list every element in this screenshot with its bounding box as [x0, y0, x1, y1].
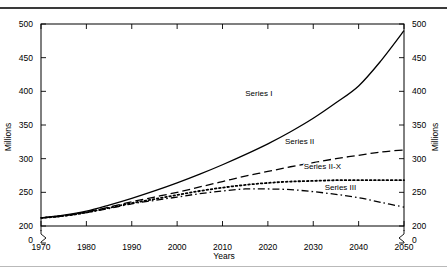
y-tick-label-left: 450: [19, 53, 33, 63]
chart-figure: 0200250300350400450500 02002503003504004…: [0, 0, 447, 273]
y-tick-label-left: 350: [19, 120, 33, 130]
series-label-1: Series I: [245, 89, 272, 98]
y-tick-label-right: 400: [412, 86, 426, 96]
y-tick-label-right: 200: [412, 221, 426, 231]
y-axis-right-tick-labels: 0200250300350400450500: [412, 19, 426, 245]
series-label-3: Series II-X: [304, 162, 342, 171]
y-tick-label-left: 300: [19, 154, 33, 164]
series-inline-labels: Series ISeries IISeries II-XSeries III: [245, 89, 356, 192]
y-axis-left-title: Millions: [3, 123, 13, 151]
x-axis-title: Years: [213, 251, 234, 261]
y-tick-label-right: 500: [412, 19, 426, 29]
y-tick-label-left: 200: [19, 221, 33, 231]
series-label-4: Series III: [325, 183, 357, 192]
x-tick-label: 1980: [77, 242, 96, 252]
x-tick-label: 2050: [395, 242, 414, 252]
y-tick-label-left: 250: [19, 187, 33, 197]
y-axis-left-tick-labels: 0200250300350400450500: [19, 19, 33, 245]
y-axis-right-title: Millions: [430, 123, 440, 151]
y-tick-label-right: 250: [412, 187, 426, 197]
y-tick-label-right: 300: [412, 154, 426, 164]
y-tick-label-left: 500: [19, 19, 33, 29]
x-tick-label: 2040: [349, 242, 368, 252]
axis-break-marks: [41, 226, 404, 243]
x-tick-label: 2020: [258, 242, 277, 252]
x-tick-label: 2030: [304, 242, 323, 252]
x-tick-label: 1970: [32, 242, 51, 252]
x-tick-label: 1990: [122, 242, 141, 252]
x-tick-label: 2000: [168, 242, 187, 252]
series-line-4: [41, 189, 404, 218]
y-tick-label-left: 400: [19, 86, 33, 96]
series-label-2: Series II: [285, 137, 314, 146]
y-tick-label-right: 350: [412, 120, 426, 130]
line-chart-svg: 0200250300350400450500 02002503003504004…: [0, 0, 447, 273]
y-tick-label-right: 450: [412, 53, 426, 63]
